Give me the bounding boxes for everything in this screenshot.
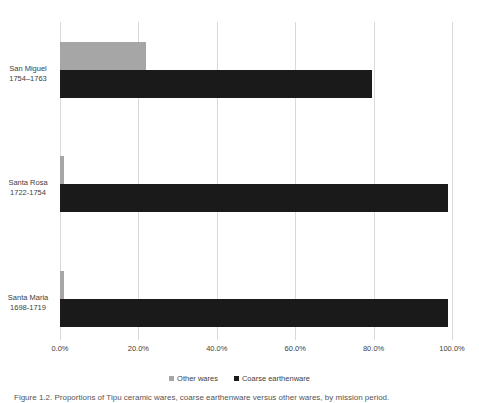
bar-coarse-earthenware-santa-maria — [60, 299, 448, 327]
x-tick-label-40: 40.0% — [206, 344, 227, 353]
x-tick-label-60: 60.0% — [285, 344, 306, 353]
bar-coarse-earthenware-san-miguel — [60, 70, 372, 98]
x-tick-label-0: 0.0% — [51, 344, 68, 353]
category-label-santa-maria: Santa Maria 1698-1719 — [0, 293, 56, 313]
x-tick-label-100: 100.0% — [439, 344, 464, 353]
category-name: San Miguel — [0, 64, 56, 74]
category-dates: 1722-1754 — [0, 188, 56, 198]
x-tick-label-20: 20.0% — [128, 344, 149, 353]
category-name: Santa Maria — [0, 293, 56, 303]
legend-item-coarse-earthenware: Coarse earthenware — [234, 374, 310, 383]
figure-caption: Figure 1.2. Proportions of Tipu ceramic … — [14, 392, 464, 403]
bar-coarse-earthenware-santa-rosa — [60, 184, 448, 212]
x-axis: 0.0% 20.0% 40.0% 60.0% 80.0% 100.0% — [60, 344, 452, 358]
category-label-santa-rosa: Santa Rosa 1722-1754 — [0, 178, 56, 198]
legend-swatch-icon — [234, 376, 239, 381]
bar-other-wares-san-miguel — [60, 42, 146, 70]
legend-swatch-icon — [169, 376, 174, 381]
bar-other-wares-santa-maria — [60, 271, 64, 299]
category-dates: 1754–1763 — [0, 74, 56, 84]
legend-label: Coarse earthenware — [242, 374, 310, 383]
category-name: Santa Rosa — [0, 178, 56, 188]
gridline-100 — [452, 22, 453, 340]
gridline-80 — [374, 22, 375, 340]
legend-item-other-wares: Other wares — [169, 374, 218, 383]
category-dates: 1698-1719 — [0, 303, 56, 313]
legend-label: Other wares — [177, 374, 218, 383]
category-label-san-miguel: San Miguel 1754–1763 — [0, 64, 56, 84]
plot-area — [60, 22, 452, 340]
bar-other-wares-santa-rosa — [60, 156, 64, 184]
x-tick-label-80: 80.0% — [363, 344, 384, 353]
chart-legend: Other wares Coarse earthenware — [0, 374, 479, 383]
